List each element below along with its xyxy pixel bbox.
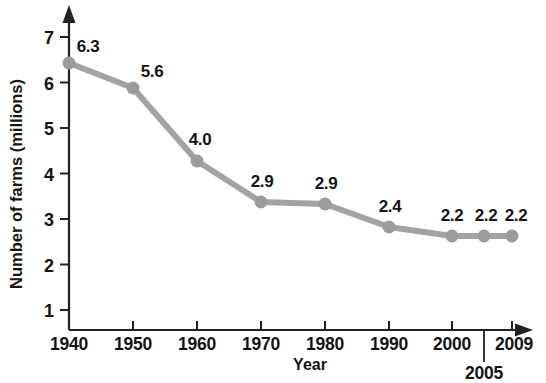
x-tick-label-2005: 2005 — [465, 363, 504, 383]
data-point-2000[interactable] — [446, 230, 459, 243]
data-point-2005[interactable] — [478, 230, 491, 243]
x-axis-tick-labels: 1940 1950 1960 1970 1980 1990 2000 2009 … — [50, 334, 534, 383]
data-point-1980[interactable] — [319, 198, 332, 211]
x-tick-label-1970: 1970 — [242, 334, 281, 354]
x-tick-label-2000: 2000 — [433, 334, 472, 354]
x-tick-label-1960: 1960 — [178, 334, 217, 354]
x-tick-label-1990: 1990 — [370, 334, 409, 354]
y-tick-label-2: 2 — [44, 256, 54, 276]
chart-canvas: 7 6 5 4 3 2 1 Number of farms (millions) — [0, 0, 546, 383]
y-axis-title-text: Number of farms (millions) — [7, 79, 25, 289]
x-tick-label-2009: 2009 — [495, 334, 534, 354]
data-point-1960[interactable] — [191, 155, 204, 168]
y-tick-label-4: 4 — [44, 165, 54, 185]
data-point-1950[interactable] — [127, 82, 140, 95]
data-point-2009[interactable] — [506, 230, 519, 243]
x-tick-label-1950: 1950 — [114, 334, 153, 354]
data-label-1940: 6.3 — [77, 37, 100, 56]
x-axis-title: Year — [293, 356, 327, 373]
y-axis — [63, 5, 76, 330]
y-tick-label-7: 7 — [44, 28, 54, 48]
x-tick-label-1940: 1940 — [50, 334, 89, 354]
data-label-2009: 2.2 — [505, 206, 528, 225]
data-point-labels: 6.3 5.6 4.0 2.9 2.9 2.4 2.2 2.2 2.2 — [77, 37, 528, 225]
y-tick-label-6: 6 — [44, 74, 54, 94]
farms-line-chart: 7 6 5 4 3 2 1 Number of farms (millions) — [0, 0, 546, 383]
y-axis-title: Number of farms (millions) — [7, 79, 25, 289]
data-label-1960: 4.0 — [189, 130, 212, 149]
up-arrow-icon — [63, 5, 76, 23]
data-point-1990[interactable] — [383, 221, 396, 234]
data-point-1970[interactable] — [255, 196, 268, 209]
y-tick-label-3: 3 — [44, 210, 54, 230]
data-point-1940[interactable] — [63, 57, 76, 70]
y-axis-ticks — [60, 37, 69, 310]
y-axis-tick-labels: 7 6 5 4 3 2 1 — [44, 28, 54, 321]
data-label-1980: 2.9 — [315, 174, 338, 193]
data-label-2005: 2.2 — [475, 206, 498, 225]
data-label-1950: 5.6 — [141, 62, 164, 81]
data-label-2000: 2.2 — [441, 206, 464, 225]
x-tick-label-1980: 1980 — [306, 334, 345, 354]
y-tick-label-5: 5 — [44, 119, 54, 139]
data-label-1970: 2.9 — [251, 172, 274, 191]
data-label-1990: 2.4 — [379, 197, 403, 216]
y-tick-label-1: 1 — [44, 301, 54, 321]
